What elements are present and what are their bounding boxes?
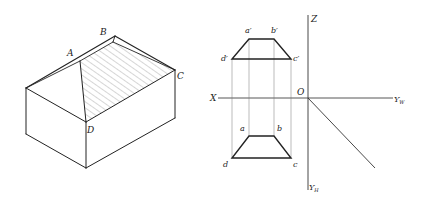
label-c: c [293,160,298,169]
label-Yw: YW [394,95,405,105]
label-a: a [240,124,245,133]
label-A: A [66,48,74,58]
label-d: d [223,160,228,169]
yw-yh-diagonal [308,98,375,168]
hatched-face-abcd [80,42,175,122]
label-a-prime: a′ [245,26,252,35]
label-O: O [297,87,305,97]
label-d-prime: d′ [221,54,228,63]
label-Z: Z [310,14,318,24]
label-Yh: YH [309,183,319,193]
label-b-prime: b′ [271,26,278,35]
edge-left-a [26,61,80,88]
front-view-trapezoid [232,39,291,59]
label-b: b [277,124,282,133]
label-X: X [209,93,217,103]
isometric-house [26,36,175,168]
label-C: C [177,71,184,81]
wall-bottom-right [86,118,175,168]
orthographic-projection [218,15,393,190]
wall-top-left [26,88,86,122]
projection-diagram: A B C D a′ b′ d′ c′ a b d c X Z O YW YH [0,0,424,205]
label-c-prime: c′ [293,54,299,63]
label-B: B [99,27,107,37]
wall-bottom-left [26,134,86,168]
top-view-trapezoid [232,136,291,158]
label-D: D [86,125,94,135]
